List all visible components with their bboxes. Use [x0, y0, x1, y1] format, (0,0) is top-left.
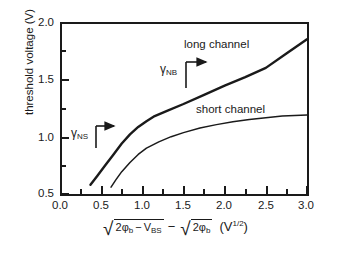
x-tick-minor-0.75 [121, 189, 123, 194]
y-tick-minor-0.75 [62, 165, 66, 167]
y-ticklabel-0.5: 0.5 [20, 187, 54, 199]
y-tick-1.0 [62, 137, 69, 139]
x-tick-0.0 [60, 186, 62, 194]
y-tick-2.0 [62, 22, 69, 24]
x-tick-3.0 [306, 186, 308, 194]
gamma-sub-nb: NB [166, 68, 177, 77]
x-tick-2.0 [224, 186, 226, 194]
x-axis-line [60, 194, 309, 196]
x-ticklabel-3.0: 3.0 [286, 199, 326, 211]
radical-first: √2φb−VBS [102, 219, 164, 235]
y-ticklabel-1.0: 1.0 [20, 131, 54, 143]
plot-frame-right [307, 22, 309, 196]
x-tick-minor-0.25 [80, 189, 82, 194]
sub-b-1: b [129, 226, 133, 235]
units-group: (V1/2) [219, 219, 247, 234]
x-tick-minor-2.75 [286, 189, 288, 194]
x-ticklabel-1.0: 1.0 [122, 199, 162, 211]
annotation-gamma-ns: γNS [71, 126, 88, 141]
radical-sign-icon-2: √ [180, 223, 190, 235]
curve-label-short-channel: short channel [196, 103, 265, 115]
x-ticklabel-2.0: 2.0 [204, 199, 244, 211]
x-tick-0.5 [101, 186, 103, 194]
x-tick-minor-1.75 [203, 189, 205, 194]
units-exponent: 1/2 [232, 219, 243, 228]
gamma-sub-ns: NS [77, 132, 88, 141]
sub-bs: BS [151, 226, 162, 235]
units-paren-close: ) [244, 219, 248, 234]
x-ticklabel-2.5: 2.5 [246, 199, 286, 211]
y-tick-minor-1.75 [62, 50, 66, 52]
y-tick-minor-1.25 [62, 108, 66, 110]
x-tick-minor-2.25 [245, 189, 247, 194]
y-ticklabel-1.5: 1.5 [20, 73, 54, 85]
annotation-gamma-nb: γNB [160, 62, 177, 77]
x-tick-minor-1.25 [162, 189, 164, 194]
x-tick-2.5 [266, 186, 268, 194]
plot-frame-top [60, 22, 309, 24]
x-axis-title: √2φb−VBS−√2φb(V1/2) [40, 218, 310, 235]
radicand-first: 2φb−VBS [114, 219, 164, 235]
x-ticklabel-0.0: 0.0 [40, 199, 80, 211]
x-ticklabel-0.5: 0.5 [81, 199, 121, 211]
outer-minus: − [168, 219, 176, 234]
x-tick-1.5 [183, 186, 185, 194]
radical-second: √2φb [179, 219, 212, 235]
y-tick-0.5 [62, 193, 69, 195]
radicand-second: 2φb [191, 219, 213, 235]
term-vbs: V [144, 221, 151, 233]
figure-root: threshold voltage (V) [0, 0, 341, 260]
curve-label-long-channel: long channel [184, 38, 249, 50]
radical-sign-icon: √ [103, 223, 113, 235]
x-ticklabel-1.5: 1.5 [163, 199, 203, 211]
x-tick-1.0 [142, 186, 144, 194]
inner-minus: − [135, 221, 141, 233]
y-tick-1.5 [62, 79, 69, 81]
sub-b-2: b [206, 226, 210, 235]
term-2phi-b: 2φ [116, 221, 129, 233]
term-2phi-b-2: 2φ [193, 221, 206, 233]
y-ticklabel-2.0: 2.0 [20, 16, 54, 28]
